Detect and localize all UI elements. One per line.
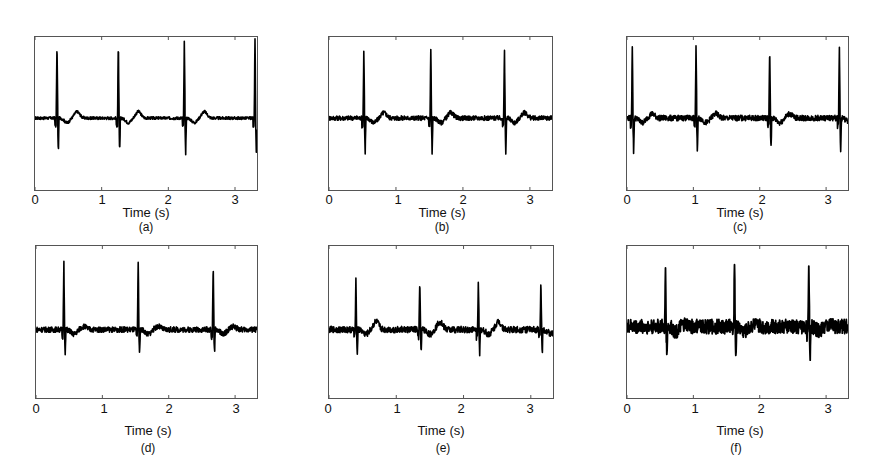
x-axis-label: Time (s): [417, 423, 464, 438]
x-tick-0: 0: [325, 192, 332, 207]
x-tick-0: 0: [623, 192, 630, 207]
ecg-trace-c: [627, 37, 848, 190]
x-axis-label: Time (s): [418, 205, 465, 220]
panel-caption: (f): [730, 441, 741, 455]
x-axis-label: Time (s): [122, 205, 169, 220]
panel-caption: (e): [436, 441, 451, 455]
x-tick-2: 2: [757, 401, 764, 416]
x-tick-2: 2: [457, 401, 464, 416]
ecg-trace-b: [329, 37, 552, 190]
x-tick-0: 0: [31, 192, 38, 207]
axes-e: [328, 245, 554, 399]
x-axis-label: Time (s): [716, 423, 763, 438]
x-tick-3: 3: [526, 192, 533, 207]
x-tick-3: 3: [232, 401, 239, 416]
x-tick-2: 2: [165, 401, 172, 416]
x-tick-3: 3: [824, 192, 831, 207]
x-tick-3: 3: [231, 192, 238, 207]
x-tick-1: 1: [691, 401, 698, 416]
x-tick-1: 1: [394, 192, 401, 207]
x-tick-1: 1: [393, 401, 400, 416]
x-tick-1: 1: [691, 192, 698, 207]
ecg-trace-d: [36, 246, 257, 398]
panel-caption: (d): [141, 441, 156, 455]
x-tick-3: 3: [824, 401, 831, 416]
x-tick-0: 0: [324, 401, 331, 416]
ecg-trace-e: [329, 246, 553, 398]
axes-a: [34, 36, 258, 191]
x-tick-1: 1: [100, 401, 107, 416]
panel-caption: (c): [733, 220, 747, 234]
x-tick-0: 0: [32, 401, 39, 416]
axes-d: [35, 245, 258, 399]
x-tick-3: 3: [526, 401, 533, 416]
x-tick-1: 1: [98, 192, 105, 207]
panel-caption: (a): [139, 220, 154, 234]
axes-b: [328, 36, 553, 191]
ecg-trace-a: [35, 37, 257, 190]
ecg-trace-f: [627, 246, 848, 398]
x-tick-0: 0: [623, 401, 630, 416]
panel-caption: (b): [435, 220, 450, 234]
x-axis-label: Time (s): [716, 205, 763, 220]
x-axis-label: Time (s): [124, 423, 171, 438]
axes-f: [626, 245, 849, 399]
axes-c: [626, 36, 849, 191]
